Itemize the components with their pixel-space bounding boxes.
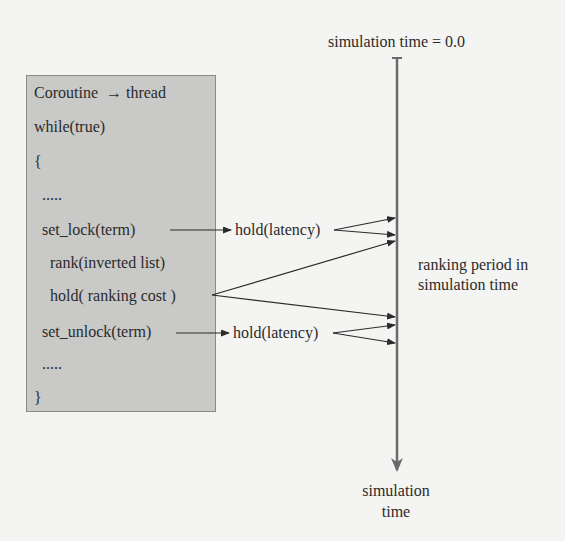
- timeline-arrowhead-icon: [391, 458, 403, 472]
- code-line-open-brace: {: [34, 153, 42, 171]
- code-line-set-lock: set_lock(term): [34, 221, 135, 239]
- hold-latency-top-arrow-end: [334, 230, 395, 235]
- ranking-cost-arrow-end: [212, 295, 395, 317]
- code-line-coroutine-thread: Coroutine → thread: [34, 84, 166, 102]
- hold-latency-bottom-arrow-start: [333, 325, 395, 333]
- ranking-cost-arrow-start: [212, 241, 395, 295]
- hold-latency-label-top: hold(latency): [235, 221, 320, 239]
- simulation-timeline: [391, 58, 403, 472]
- simulation-time-end-label-line2: time: [346, 503, 446, 521]
- hold-latency-label-bottom: hold(latency): [233, 324, 318, 342]
- ranking-period-label-line2: simulation time: [418, 276, 518, 294]
- code-line-hold-ranking-cost: hold( ranking cost ): [34, 287, 176, 305]
- code-line-ellipsis-2: .....: [34, 355, 62, 373]
- hold-latency-top-arrow-start: [334, 218, 395, 230]
- hold-latency-bottom-arrow-end: [333, 333, 395, 343]
- simulation-time-end-label-line1: simulation: [346, 482, 446, 500]
- code-line-rank: rank(inverted list): [34, 254, 165, 272]
- ranking-period-label-line1: ranking period in: [418, 256, 528, 274]
- code-line-close-brace: }: [34, 389, 42, 407]
- code-line-set-unlock: set_unlock(term): [34, 323, 151, 341]
- simulation-time-start-label: simulation time = 0.0: [328, 33, 465, 51]
- code-line-ellipsis-1: .....: [34, 186, 62, 204]
- code-line-while: while(true): [34, 118, 105, 136]
